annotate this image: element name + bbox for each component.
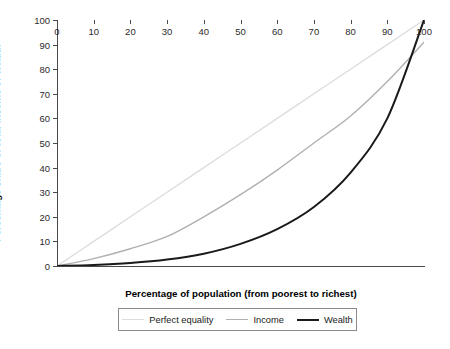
x-tick-label: 50 <box>235 26 246 37</box>
y-tick-label: 20 <box>39 211 50 222</box>
legend-line-swatch <box>297 319 319 321</box>
y-tick-mark <box>53 168 57 169</box>
x-tick-mark <box>277 20 278 24</box>
x-tick-label: 70 <box>309 26 320 37</box>
x-tick-label: 30 <box>162 26 173 37</box>
x-tick-label: 80 <box>345 26 356 37</box>
y-tick-mark <box>53 118 57 119</box>
series-lines <box>57 20 424 266</box>
legend-label: Income <box>253 315 284 325</box>
y-tick-label: 90 <box>39 39 50 50</box>
x-tick-mark <box>314 20 315 24</box>
x-axis-spine <box>57 266 425 267</box>
legend-label: Perfect equality <box>149 315 213 325</box>
legend-line-swatch <box>226 319 248 320</box>
figure-caption <box>8 339 442 348</box>
x-tick-mark <box>351 20 352 24</box>
series-line-perfect-equality <box>57 20 424 266</box>
x-axis-title: Percentage of population (from poorest t… <box>57 288 425 299</box>
x-tick-mark <box>130 20 131 24</box>
y-tick-mark <box>53 94 57 95</box>
y-tick-label: 10 <box>39 236 50 247</box>
y-tick-label: 70 <box>39 88 50 99</box>
series-line-income <box>57 42 424 266</box>
y-tick-label: 100 <box>34 15 50 26</box>
x-tick-mark <box>167 20 168 24</box>
x-tick-label: 20 <box>125 26 136 37</box>
lorenz-curve-figure: Percentage share of total income or weal… <box>0 0 450 349</box>
y-tick-mark <box>53 217 57 218</box>
legend-item-perfect-equality[interactable]: Perfect equality <box>122 315 213 325</box>
legend-item-income[interactable]: Income <box>226 315 284 325</box>
y-tick-mark <box>53 69 57 70</box>
chart-legend: Perfect equalityIncomeWealth <box>118 308 357 331</box>
x-tick-mark <box>204 20 205 24</box>
y-tick-label: 50 <box>39 138 50 149</box>
legend-line-swatch <box>122 319 144 320</box>
y-tick-mark <box>53 45 57 46</box>
x-tick-mark <box>424 20 425 24</box>
y-axis-title: Percentage share of total income or weal… <box>0 44 2 242</box>
y-tick-label: 30 <box>39 187 50 198</box>
plot-area: 0102030405060708090100 01020304050607080… <box>57 20 424 266</box>
x-tick-label: 60 <box>272 26 283 37</box>
x-tick-mark <box>94 20 95 24</box>
y-tick-mark <box>53 143 57 144</box>
legend-label: Wealth <box>324 315 353 325</box>
legend-item-wealth[interactable]: Wealth <box>297 315 353 325</box>
y-tick-mark <box>53 192 57 193</box>
x-tick-label: 0 <box>54 26 59 37</box>
x-tick-label: 100 <box>416 26 432 37</box>
x-tick-label: 40 <box>199 26 210 37</box>
y-tick-label: 40 <box>39 162 50 173</box>
x-tick-mark <box>387 20 388 24</box>
y-tick-label: 60 <box>39 113 50 124</box>
x-tick-label: 10 <box>88 26 99 37</box>
x-tick-mark <box>241 20 242 24</box>
x-tick-label: 90 <box>382 26 393 37</box>
y-tick-label: 0 <box>45 261 50 272</box>
y-tick-mark <box>53 266 57 267</box>
x-tick-mark <box>57 20 58 24</box>
y-tick-label: 80 <box>39 64 50 75</box>
y-tick-mark <box>53 241 57 242</box>
